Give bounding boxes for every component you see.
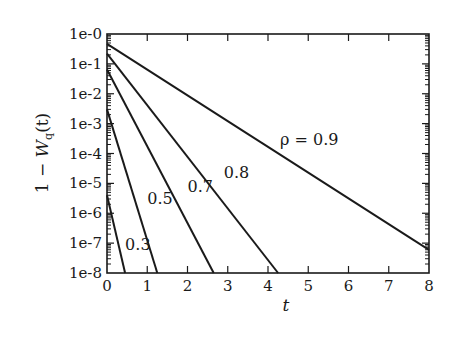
- x-tick-label: 3: [223, 277, 233, 295]
- y-tick-label: 1e-7: [69, 234, 102, 252]
- y-tick-label: 1e-1: [69, 55, 102, 73]
- x-tick-label: 5: [303, 277, 313, 295]
- x-tick-label: 4: [263, 277, 273, 295]
- log-survival-chart: 1e-01e-11e-21e-31e-41e-51e-61e-71e-8 012…: [0, 0, 454, 338]
- curve-label: ρ = 0.9: [280, 130, 338, 149]
- axis-ticks: [107, 34, 429, 273]
- y-tick-label: 1e-3: [69, 115, 102, 133]
- curve-label: 0.8: [224, 163, 249, 182]
- curve-label: 0.3: [125, 235, 150, 254]
- x-tick-labels: 012345678: [102, 277, 434, 295]
- plot-frame: [107, 34, 429, 273]
- y-axis-label: 1 − Wq(t): [32, 113, 55, 194]
- y-minor-ticks: [107, 35, 429, 264]
- y-tick-label: 1e-6: [69, 204, 102, 222]
- curve-label: 0.5: [147, 189, 172, 208]
- curve-label: 0.7: [188, 177, 213, 196]
- curves: [107, 44, 429, 273]
- y-tick-label: 1e-0: [69, 25, 102, 43]
- y-tick-label: 1e-4: [69, 145, 102, 163]
- x-tick-label: 1: [142, 277, 152, 295]
- x-tick-label: 6: [344, 277, 354, 295]
- curve-rho-0.9: [107, 44, 429, 250]
- x-tick-label: 2: [183, 277, 193, 295]
- y-tick-label: 1e-5: [69, 174, 102, 192]
- x-axis-label: t: [283, 295, 290, 315]
- x-tick-label: 8: [424, 277, 434, 295]
- y-tick-label: 1e-2: [69, 85, 102, 103]
- y-tick-label: 1e-8: [69, 264, 102, 282]
- x-tick-label: 7: [384, 277, 394, 295]
- y-tick-labels: 1e-01e-11e-21e-31e-41e-51e-61e-71e-8: [69, 25, 102, 282]
- x-tick-label: 0: [102, 277, 112, 295]
- curve-labels: ρ = 0.90.80.70.50.3: [125, 130, 338, 254]
